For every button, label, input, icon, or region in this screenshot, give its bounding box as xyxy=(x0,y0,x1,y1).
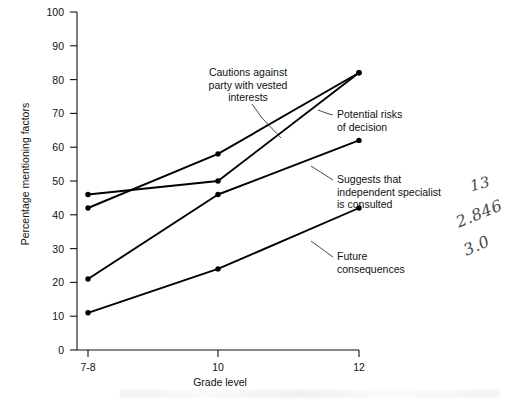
annotation-potential-risks-line-2: of decision xyxy=(337,121,447,134)
y-tick-label-60: 60 xyxy=(30,142,64,153)
chart-figure: 100 90 80 70 60 50 40 30 20 10 0 7-8 10 … xyxy=(0,0,523,401)
y-tick-label-20: 20 xyxy=(30,277,64,288)
y-tick-label-10: 10 xyxy=(30,311,64,322)
annotation-cautions-line-3: interests xyxy=(186,91,310,104)
series-future-consequences xyxy=(85,205,361,315)
annotation-potential-risks-line-1: Potential risks xyxy=(337,108,447,121)
x-axis-title: Grade level xyxy=(160,376,280,388)
y-tick-label-70: 70 xyxy=(30,108,64,119)
annotation-potential-risks: Potential risks of decision xyxy=(337,108,447,133)
annotation-suggests-independent-specialist: Suggests that independent specialist is … xyxy=(337,173,467,211)
y-tick-label-100: 100 xyxy=(30,7,64,18)
annotation-suggests-line-2: independent specialist xyxy=(337,186,467,199)
annotation-future-consequences: Future consequences xyxy=(337,250,447,275)
x-axis-ticks xyxy=(88,350,359,357)
y-tick-label-30: 30 xyxy=(30,244,64,255)
y-tick-label-50: 50 xyxy=(30,176,64,187)
x-tick-label-10: 10 xyxy=(188,362,248,373)
annotation-cautions-line-1: Cautions against xyxy=(186,66,310,79)
y-tick-label-0: 0 xyxy=(30,345,64,356)
x-tick-label-7-8: 7-8 xyxy=(58,362,118,373)
leader-line-potential-risks xyxy=(318,110,333,115)
y-axis-ticks xyxy=(70,12,77,350)
y-tick-label-80: 80 xyxy=(30,75,64,86)
annotation-cautions-line-2: party with vested xyxy=(186,79,310,92)
annotation-suggests-line-1: Suggests that xyxy=(337,173,467,186)
y-tick-label-40: 40 xyxy=(30,210,64,221)
annotation-cautions-against-party: Cautions against party with vested inter… xyxy=(186,66,310,104)
leader-line-future xyxy=(311,241,333,257)
x-tick-label-12: 12 xyxy=(329,362,389,373)
series-suggests-independent-specialist xyxy=(85,138,361,282)
y-axis-title: Percentage mentioning factors xyxy=(19,94,31,254)
annotation-future-line-1: Future xyxy=(337,250,447,263)
leader-line-suggests xyxy=(311,166,333,180)
y-tick-label-90: 90 xyxy=(30,41,64,52)
annotation-future-line-2: consequences xyxy=(337,263,447,276)
page-edge-artifact xyxy=(120,390,500,398)
annotation-suggests-line-3: is consulted xyxy=(337,198,467,211)
